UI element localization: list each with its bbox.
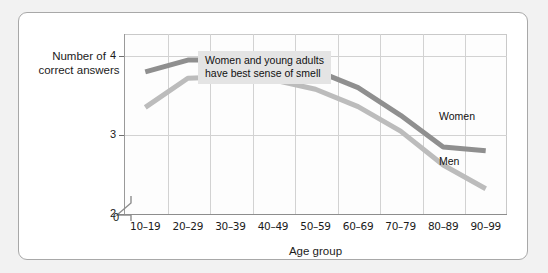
x-axis-line (124, 214, 507, 215)
y-axis-title-line-2: correct answers (29, 63, 129, 77)
chart-figure-frame: Number of correct answers 234 0 10–1920–… (18, 12, 528, 260)
annotation-line-1: Women and young adults (205, 54, 324, 67)
y-axis-tick-label: 4 (92, 49, 116, 61)
annotation-line-2: have best sense of smell (205, 67, 324, 80)
chart-annotation-callout: Women and young adults have best sense o… (198, 51, 331, 84)
x-axis-title: Age group (124, 245, 507, 257)
series-line-men (145, 77, 485, 189)
series-label-men: Men (439, 155, 459, 167)
x-axis-tick-label: 90–99 (459, 220, 513, 232)
y-axis-zero-label: 0 (103, 211, 119, 223)
series-label-women: Women (439, 110, 475, 122)
y-axis-tick-label: 3 (92, 128, 116, 140)
